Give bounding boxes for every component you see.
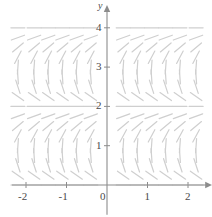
slope-segment — [57, 122, 68, 131]
slope-segment — [160, 122, 171, 131]
y-tick-label-4: 4 — [96, 22, 102, 33]
slope-segment — [146, 122, 157, 131]
slope-segment — [85, 43, 96, 52]
slope-segment — [70, 35, 83, 40]
slope-segment — [13, 43, 24, 52]
slope-segment — [12, 93, 23, 101]
slope-segment — [43, 93, 54, 101]
slope-segment — [43, 43, 54, 52]
x-tick-label--2: -2 — [18, 191, 27, 202]
x-tick-label-2: 2 — [185, 191, 191, 202]
x-axis-arrow — [205, 182, 212, 188]
slope-segment — [57, 43, 68, 52]
slope-segment — [76, 60, 77, 74]
slope-segment — [145, 114, 158, 119]
slope-segment — [76, 139, 77, 153]
slope-segment — [190, 171, 201, 179]
slope-segment — [90, 60, 91, 74]
slope-segment — [43, 171, 54, 179]
slope-segment — [11, 35, 24, 40]
slope-segment — [117, 93, 128, 101]
slope-segment — [132, 171, 143, 179]
slope-segment — [191, 43, 202, 52]
slope-segment — [29, 122, 40, 131]
slope-segment — [160, 93, 171, 101]
slope-segment — [42, 114, 55, 119]
slope-segment — [131, 114, 144, 119]
slope-segment — [71, 171, 82, 179]
slope-segment — [71, 43, 82, 52]
slope-segment — [71, 122, 82, 131]
x-tick-label--1: -1 — [59, 191, 68, 202]
slope-segment — [117, 114, 130, 119]
slope-segment — [57, 171, 68, 179]
slope-segment — [28, 35, 41, 40]
slope-segment — [159, 114, 172, 119]
y-tick-label-1: 1 — [96, 140, 102, 151]
slope-segment — [137, 139, 138, 153]
slope-segment — [179, 139, 180, 153]
slope-segment — [145, 35, 158, 40]
slope-segment — [118, 122, 129, 131]
slope-segment — [84, 35, 97, 40]
slope-segment — [151, 60, 152, 74]
slope-segment — [34, 60, 35, 74]
slope-segment — [131, 35, 144, 40]
slope-segment — [28, 114, 41, 119]
slope-segment — [117, 171, 128, 179]
slope-segment — [28, 93, 39, 101]
slope-segment — [48, 139, 49, 153]
slope-segment — [179, 60, 180, 74]
slope-segment — [11, 114, 24, 119]
slope-segment — [57, 93, 68, 101]
slope-segment — [146, 43, 157, 52]
slope-segment — [190, 35, 203, 40]
slope-segment — [174, 171, 185, 179]
slope-segment — [117, 35, 130, 40]
slope-segment — [56, 114, 69, 119]
slope-segment — [34, 139, 35, 153]
slope-segment — [17, 139, 18, 153]
plot-canvas — [0, 0, 212, 217]
y-axis-arrow — [104, 5, 110, 12]
slope-segment — [146, 93, 157, 101]
slope-segment — [175, 122, 186, 131]
slope-segment — [132, 122, 143, 131]
slope-segment — [70, 114, 83, 119]
slope-field-figure: -2-10121234xy — [0, 0, 212, 217]
slope-segment — [62, 60, 63, 74]
slope-segment — [165, 60, 166, 74]
slope-segment — [29, 43, 40, 52]
y-axis-name: y — [98, 1, 102, 11]
y-tick-label-3: 3 — [96, 61, 102, 72]
slope-segment — [175, 43, 186, 52]
slope-segment — [56, 35, 69, 40]
slope-segment — [123, 60, 124, 74]
slope-segment — [17, 60, 18, 74]
x-tick-label-1: 1 — [145, 191, 151, 202]
slope-segment — [132, 93, 143, 101]
slope-segment — [173, 35, 186, 40]
slope-segment — [12, 171, 23, 179]
y-tick-label-2: 2 — [96, 100, 102, 111]
slope-segment — [196, 60, 197, 74]
slope-segment — [84, 114, 97, 119]
slope-segment — [48, 60, 49, 74]
slope-segment — [118, 43, 129, 52]
slope-segment — [137, 60, 138, 74]
slope-segment — [62, 139, 63, 153]
x-tick-label-0: 0 — [100, 191, 106, 202]
slope-segment — [123, 139, 124, 153]
slope-segment — [85, 171, 96, 179]
slope-segment — [190, 93, 201, 101]
slope-segment — [159, 35, 172, 40]
slope-segment — [173, 114, 186, 119]
slope-segment — [146, 171, 157, 179]
slope-segment — [191, 122, 202, 131]
slope-segment — [85, 93, 96, 101]
slope-segment — [13, 122, 24, 131]
slope-segment — [132, 43, 143, 52]
slope-segment — [196, 139, 197, 153]
slope-segment — [151, 139, 152, 153]
slope-segment — [90, 139, 91, 153]
